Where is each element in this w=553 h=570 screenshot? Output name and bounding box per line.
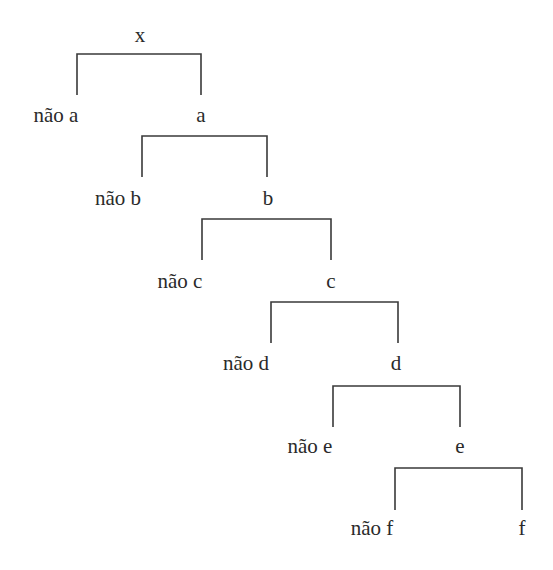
negated-branch-label: não d	[223, 351, 270, 375]
affirmed-branch-label: a	[196, 103, 206, 127]
affirmed-branch-label: d	[391, 351, 402, 375]
negated-branch-label: não f	[351, 516, 394, 540]
tree-level-6: não ff	[351, 468, 526, 540]
branch-connector	[202, 219, 331, 260]
tree-level-1: não aa	[34, 54, 207, 127]
affirmed-branch-label: e	[455, 434, 464, 458]
branch-connector	[271, 302, 398, 343]
negated-branch-label: não b	[95, 186, 141, 210]
affirmed-branch-label: f	[519, 516, 526, 540]
tree-level-3: não cc	[158, 219, 336, 293]
tree-level-5: não ee	[288, 386, 465, 458]
tree-level-2: não bb	[95, 136, 273, 210]
negated-branch-label: não e	[288, 434, 333, 458]
affirmed-branch-label: b	[263, 186, 274, 210]
tree-level-4: não dd	[223, 302, 402, 375]
branch-connector	[395, 468, 522, 510]
affirmed-branch-label: c	[326, 269, 335, 293]
negated-branch-label: não c	[158, 269, 203, 293]
branch-connector	[333, 386, 460, 427]
branch-connector	[142, 136, 267, 177]
tree-levels: não aanão bbnão ccnão ddnão eenão ff	[34, 54, 526, 540]
branch-connector	[77, 54, 201, 95]
negated-branch-label: não a	[34, 103, 80, 127]
root-node-label: x	[135, 23, 146, 47]
decision-tree-diagram: x não aanão bbnão ccnão ddnão eenão ff	[0, 0, 553, 570]
